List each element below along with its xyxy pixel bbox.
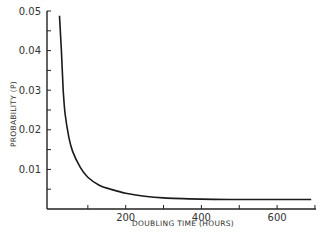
y-tick-label: 0.04 — [19, 45, 41, 56]
y-axis: 0.010.020.030.040.05 — [19, 6, 51, 210]
probability-curve — [60, 16, 312, 200]
y-tick-label: 0.05 — [19, 6, 41, 17]
y-tick-label: 0.01 — [19, 164, 41, 175]
y-tick-label: 0.03 — [19, 85, 41, 96]
y-axis-title: PROBABILITY (P) — [9, 81, 18, 147]
y-tick-label: 0.02 — [19, 124, 41, 135]
probability-vs-doubling-time-chart: 0.010.020.030.040.05 200400600 DOUBLING … — [0, 0, 324, 242]
data-series — [60, 16, 312, 200]
x-tick-label: 600 — [268, 212, 287, 223]
x-axis-title: DOUBLING TIME (HOURS) — [132, 219, 234, 228]
